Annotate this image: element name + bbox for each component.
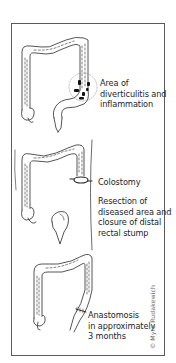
panel-1-colon-diverticulitis	[22, 37, 98, 132]
panel-2-colostomy-resection	[15, 140, 92, 250]
caption-anastomosis: Anastomosis in approximately 3 months	[88, 310, 155, 342]
caption-colostomy: Colostomy	[98, 177, 140, 188]
panel-3-anastomosis	[34, 254, 92, 332]
caption-resection: Resection of diseased area and closure o…	[98, 196, 171, 238]
illustrator-credit: © Myra Rudakewich	[149, 285, 156, 349]
caption-diverticulitis: Area of diverticulitis and inflammation	[100, 78, 166, 110]
